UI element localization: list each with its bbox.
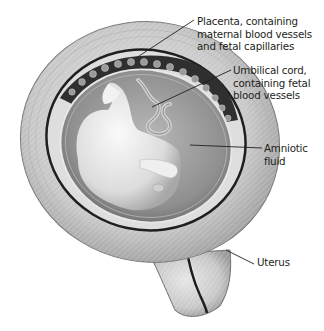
umbilical-cord-label: Umbilical cord, containing fetal blood v… bbox=[233, 64, 310, 102]
amniotic-label-line: fluid bbox=[264, 155, 308, 168]
placenta-label: Placenta, containing maternal blood vess… bbox=[197, 15, 312, 53]
amniotic-label-line: Amniotic bbox=[264, 142, 308, 155]
placenta-label-line: Placenta, containing bbox=[197, 15, 312, 28]
amniotic-fluid-label: Amniotic fluid bbox=[264, 142, 308, 167]
umbilical-label-line: Umbilical cord, bbox=[233, 64, 310, 77]
umbilical-label-line: blood vessels bbox=[233, 89, 310, 102]
umbilical-label-line: containing fetal bbox=[233, 77, 310, 90]
placenta-label-line: and fetal capillaries bbox=[197, 40, 312, 53]
placenta-label-line: maternal blood vessels bbox=[197, 28, 312, 41]
uterus-label-line: Uterus bbox=[257, 256, 290, 269]
uterus-label: Uterus bbox=[257, 256, 290, 269]
